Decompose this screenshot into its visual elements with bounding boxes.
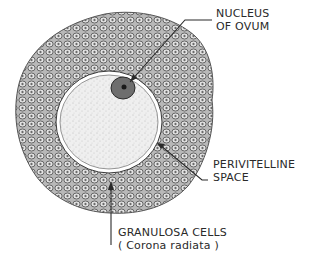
label-perivitelline-line1: PERIVITELLINE	[213, 158, 295, 171]
label-perivitelline-space: PERIVITELLINE SPACE	[213, 158, 295, 184]
label-granulosa-line2: ( Corona radiata )	[118, 239, 227, 252]
ovum	[56, 71, 162, 173]
label-granulosa-cells: GRANULOSA CELLS ( Corona radiata )	[118, 226, 227, 252]
ovum-diagram	[0, 0, 309, 259]
label-nucleus-line1: NUCLEUS	[216, 7, 269, 20]
label-nucleus-of-ovum: NUCLEUS OF OVUM	[216, 7, 269, 33]
label-perivitelline-line2: SPACE	[213, 171, 295, 184]
label-nucleus-line2: OF OVUM	[216, 20, 269, 33]
label-granulosa-line1: GRANULOSA CELLS	[118, 226, 227, 239]
